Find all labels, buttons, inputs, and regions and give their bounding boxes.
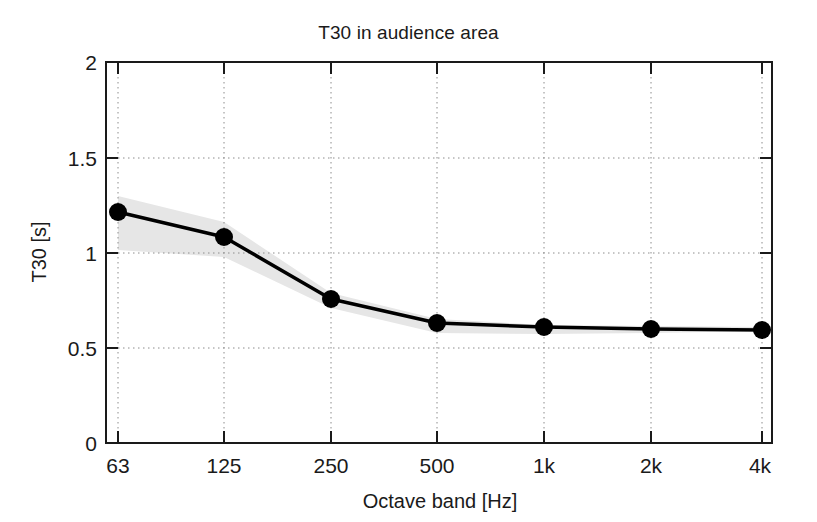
x-axis-title: Octave band [Hz]	[363, 490, 518, 512]
data-point	[215, 228, 233, 246]
data-point	[535, 318, 553, 336]
x-tick-label-2k: 2k	[640, 454, 663, 477]
x-tick-label-4k: 4k	[749, 454, 772, 477]
x-tick-label-1k: 1k	[533, 454, 556, 477]
data-point	[322, 290, 340, 308]
y-tick-label-0: 0	[85, 432, 97, 455]
y-tick-labels: 0 0.5 1 1.5 2	[68, 51, 97, 455]
y-tick-label-1: 1	[85, 242, 97, 265]
y-tick-label-1-5: 1.5	[68, 147, 97, 170]
y-tick-label-0-5: 0.5	[68, 337, 97, 360]
x-tick-label-63: 63	[106, 454, 129, 477]
y-tick-label-2: 2	[85, 51, 97, 74]
spread-band	[118, 196, 762, 334]
plot-area: 0 0.5 1 1.5 2 63 125 250 500 1k 2k 4k Oc…	[0, 0, 817, 522]
x-tick-label-250: 250	[313, 454, 348, 477]
x-tick-labels: 63 125 250 500 1k 2k 4k	[106, 454, 771, 477]
data-point	[753, 321, 771, 339]
data-point	[109, 203, 127, 221]
x-tick-label-125: 125	[206, 454, 241, 477]
y-axis-title: T30 [s]	[28, 221, 50, 282]
data-point	[642, 320, 660, 338]
x-tick-label-500: 500	[419, 454, 454, 477]
chart-figure: T30 in audience area	[0, 0, 817, 522]
data-point	[428, 314, 446, 332]
